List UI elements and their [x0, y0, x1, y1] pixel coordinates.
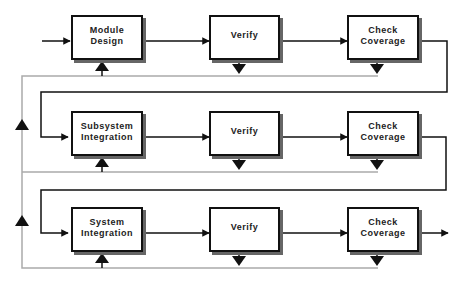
verify-box-1: Verify [209, 15, 280, 60]
step-label: System Integration [81, 217, 133, 243]
step-label: Check Coverage [360, 217, 405, 243]
step-label: Check Coverage [360, 121, 405, 147]
step-label: Verify [231, 30, 259, 45]
verify-box-2: Verify [209, 111, 280, 156]
step-label: Verify [231, 222, 259, 237]
step-label: Subsystem Integration [81, 121, 134, 147]
step-label: Check Coverage [360, 25, 405, 51]
subsystem-integration-box: Subsystem Integration [71, 111, 143, 156]
check-coverage-box-2: Check Coverage [347, 111, 419, 156]
system-integration-box: System Integration [71, 207, 143, 252]
step-label: Verify [231, 126, 259, 141]
verify-box-3: Verify [209, 207, 280, 252]
step-label: Module Design [90, 25, 125, 51]
check-coverage-box-3: Check Coverage [347, 207, 419, 252]
check-coverage-box-1: Check Coverage [347, 15, 419, 60]
module-design-box: Module Design [71, 15, 143, 60]
